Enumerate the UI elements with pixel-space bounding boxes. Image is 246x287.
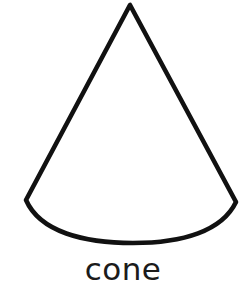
- cone-figure-card: cone: [0, 0, 246, 287]
- cone-outline-path: [26, 5, 236, 243]
- cone-shape-stage: [0, 0, 246, 255]
- figure-caption-label: cone: [0, 252, 246, 286]
- cone-drawing: [0, 0, 246, 255]
